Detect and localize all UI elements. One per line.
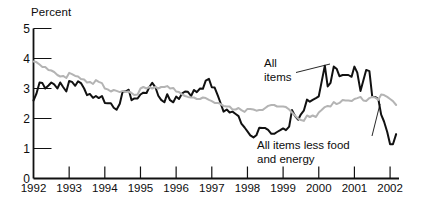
y-ticklabel-4: 4 bbox=[16, 52, 30, 66]
x-ticklabel-1997: 1997 bbox=[199, 182, 225, 194]
y-ticklabel-3: 3 bbox=[16, 82, 30, 96]
x-ticklabel-2001: 2001 bbox=[342, 182, 368, 194]
x-ticklabel-2000: 2000 bbox=[306, 182, 332, 194]
annotation-core: All items less foodand energy bbox=[257, 139, 350, 166]
x-ticklabel-1992: 1992 bbox=[21, 182, 47, 194]
annotation-all-items-line1: All bbox=[264, 57, 277, 69]
x-ticklabel-1995: 1995 bbox=[128, 182, 154, 194]
annotation-all-items: Allitems bbox=[264, 57, 291, 84]
x-ticklabel-1996: 1996 bbox=[163, 182, 189, 194]
y-ticklabel-1: 1 bbox=[16, 142, 30, 156]
annotation-all-items-line2: items bbox=[264, 71, 291, 83]
x-ticklabel-1998: 1998 bbox=[235, 182, 261, 194]
y-ticklabel-5: 5 bbox=[16, 22, 30, 36]
annotation-core-line2: and energy bbox=[257, 153, 315, 165]
series-line-all-items bbox=[34, 66, 397, 145]
y-ticklabel-2: 2 bbox=[16, 112, 30, 126]
x-ticklabel-1994: 1994 bbox=[92, 182, 118, 194]
leader-core bbox=[372, 104, 380, 136]
x-ticklabel-2002: 2002 bbox=[377, 182, 403, 194]
annotation-core-line1: All items less food bbox=[257, 139, 350, 151]
x-ticklabel-1993: 1993 bbox=[56, 182, 82, 194]
chart-figure: Percent 012345 1992199319941995199619971… bbox=[0, 0, 432, 220]
x-ticklabel-1999: 1999 bbox=[270, 182, 296, 194]
series-line-core bbox=[34, 62, 397, 121]
